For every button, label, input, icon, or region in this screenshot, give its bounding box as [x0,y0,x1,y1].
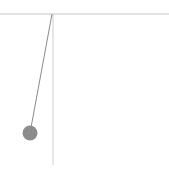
pendulum-canvas [0,0,169,175]
pendulum-string [30,14,52,133]
pendulum-bob[interactable] [23,126,38,141]
